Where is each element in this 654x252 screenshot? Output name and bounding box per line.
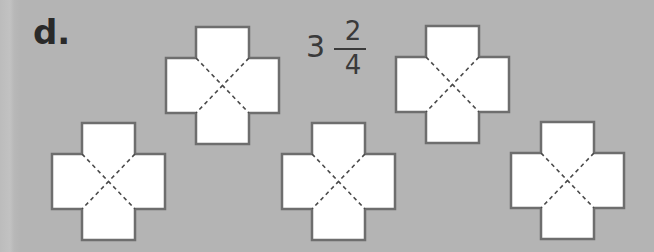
cross-shape-2 xyxy=(396,26,509,143)
cross-shape-4 xyxy=(282,123,395,240)
cross-shape-5 xyxy=(511,122,624,239)
cross-shapes-area xyxy=(0,0,654,252)
cross-shape-1 xyxy=(166,27,279,144)
cross-shape-3 xyxy=(52,123,165,240)
